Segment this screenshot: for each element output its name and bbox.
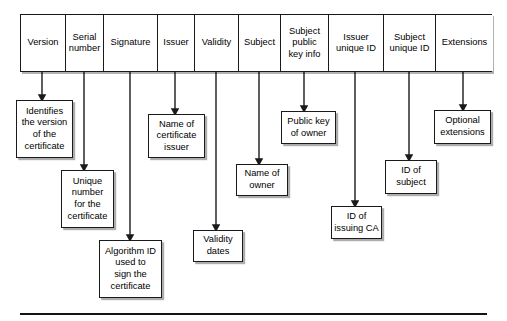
certificate-field-subject-public-key-info: Subjectpublickey info	[281, 15, 329, 71]
note-public-key-of-owner: Public keyof owner	[281, 111, 336, 144]
note-validity-dates: Validitydates	[193, 230, 243, 262]
certificate-field-version: Version	[21, 15, 66, 71]
certificate-field-serial-number: Serialnumber	[66, 15, 104, 71]
certificate-field-signature: Signature	[104, 15, 158, 71]
note-name-of-issuer: Name ofcertificateissuer	[148, 114, 205, 158]
note-id-of-subject: ID ofsubject	[385, 160, 437, 194]
note-name-of-owner: Name ofowner	[236, 164, 288, 196]
certificate-field-issuer-unique-id: Issuerunique ID	[329, 15, 384, 71]
certificate-field-subject: Subject	[239, 15, 281, 71]
certificate-field-row: VersionSerialnumberSignatureIssuerValidi…	[20, 14, 492, 72]
note-optional-extensions: Optionalextensions	[434, 110, 491, 144]
certificate-field-issuer: Issuer	[158, 15, 195, 71]
certificate-field-validity: Validity	[195, 15, 239, 71]
note-algorithm-id: Algorithm IDused tosign thecertificate	[99, 240, 162, 298]
certificate-field-subject-unique-id: Subjectunique ID	[384, 15, 436, 71]
bottom-divider-rule	[20, 313, 487, 315]
note-id-of-issuing-ca: ID ofissuing CA	[331, 206, 382, 239]
certificate-field-extensions: Extensions	[436, 15, 493, 71]
note-identifies-version: Identifiesthe versionof thecertificate	[16, 100, 73, 158]
note-unique-number: Uniquenumberfor thecertificate	[61, 170, 114, 228]
certificate-structure-diagram: VersionSerialnumberSignatureIssuerValidi…	[0, 0, 507, 321]
